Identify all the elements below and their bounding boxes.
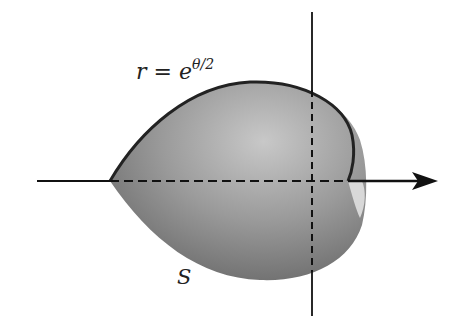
figure: r = eθ/2 S (0, 0, 471, 335)
curve-equation: r = eθ/2 (136, 58, 214, 84)
surface-of-revolution-diagram (0, 0, 471, 335)
surface-label: S (177, 265, 191, 289)
